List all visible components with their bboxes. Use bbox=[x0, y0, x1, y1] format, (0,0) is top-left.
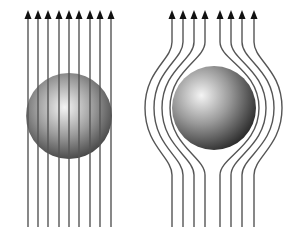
field-lines-diagram bbox=[0, 0, 298, 233]
arrowhead-icon bbox=[56, 10, 63, 19]
arrowhead-icon bbox=[251, 10, 258, 19]
arrowhead-icon bbox=[97, 10, 104, 19]
arrowhead-icon bbox=[228, 10, 235, 19]
arrowhead-icon bbox=[45, 10, 52, 19]
field-line bbox=[145, 18, 172, 227]
panel-field-penetrates-sphere bbox=[25, 10, 115, 227]
panel-field-expelled-sphere bbox=[145, 10, 282, 227]
arrowhead-icon bbox=[239, 10, 246, 19]
diagram-canvas bbox=[0, 0, 298, 233]
arrowhead-icon bbox=[66, 10, 73, 19]
arrowhead-icon bbox=[217, 10, 224, 19]
arrowhead-icon bbox=[35, 10, 42, 19]
arrowhead-icon bbox=[180, 10, 187, 19]
arrowhead-icon bbox=[87, 10, 94, 19]
arrowhead-icon bbox=[202, 10, 209, 19]
arrowhead-icon bbox=[191, 10, 198, 19]
arrowhead-icon bbox=[169, 10, 176, 19]
sphere bbox=[172, 66, 256, 150]
field-line bbox=[254, 18, 282, 227]
arrowhead-icon bbox=[76, 10, 83, 19]
arrowhead-icon bbox=[108, 10, 115, 19]
arrowhead-icon bbox=[25, 10, 32, 19]
